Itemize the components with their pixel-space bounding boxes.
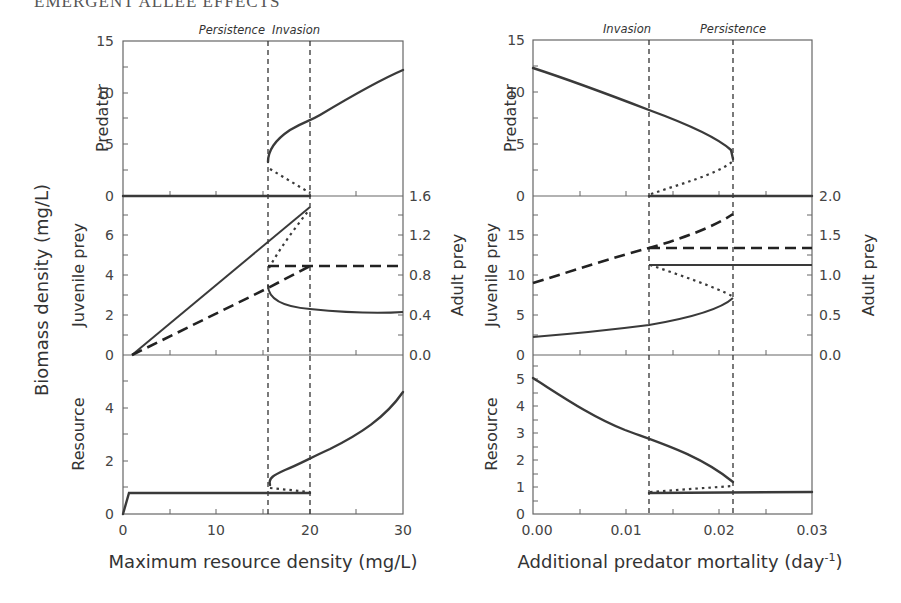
tick-label: 4	[516, 398, 525, 414]
left-predator-unstable-curve	[270, 169, 310, 193]
tick-label: 0	[105, 506, 114, 522]
tick-label: 10	[507, 267, 525, 283]
left-figure: Persistence Invasion Predator 0 5 10 15 …	[69, 23, 467, 572]
right-annotation-invasion: Invasion	[603, 22, 651, 36]
right-y-ticks	[533, 66, 812, 501]
left-y-ticks	[123, 67, 403, 487]
right-juvenile-ylabel: Juvenile prey	[482, 223, 501, 328]
tick-label: 6	[105, 227, 114, 243]
tick-label: 2	[105, 307, 114, 323]
right-resource-unstable-curve	[650, 486, 732, 492]
tick-label: 4	[105, 400, 114, 416]
right-predator-stable-curve	[533, 68, 733, 159]
tick-label: 1.2	[409, 227, 431, 243]
tick-label: 0	[119, 522, 128, 538]
tick-label: 2	[105, 453, 114, 469]
left-x-ticks	[170, 191, 356, 514]
right-plot-frame	[533, 40, 812, 514]
shared-y-axis-label: Biomass density (mg/L)	[31, 184, 52, 396]
tick-label: 5	[516, 136, 525, 152]
tick-label: 0	[105, 347, 114, 363]
tick-label: 0.5	[819, 307, 841, 323]
x-label-superscript: -1	[824, 551, 835, 564]
left-plot-frame	[123, 41, 403, 514]
tick-label: 5	[105, 136, 114, 152]
x-label-end: )	[835, 551, 842, 572]
tick-label: 0.00	[521, 522, 552, 538]
tick-label: 15	[96, 33, 114, 49]
bifurcation-figure: Biomass density (mg/L) Persistence Invas…	[0, 0, 901, 603]
right-resource-predator-free-curve	[649, 492, 812, 493]
left-x-axis-label: Maximum resource density (mg/L)	[109, 551, 418, 572]
tick-label: 2.0	[819, 188, 841, 204]
tick-label: 4	[105, 267, 114, 283]
left-resource-ylabel: Resource	[69, 397, 88, 470]
right-predator-unstable-curve	[651, 162, 732, 194]
tick-label: 30	[394, 522, 412, 538]
right-juvenile-unstable-curve	[650, 265, 732, 296]
left-juvenile-predator-free-curve	[132, 207, 310, 355]
x-label-text: Additional predator mortality (day	[518, 551, 825, 572]
left-resource-with-predator-curve	[270, 392, 403, 485]
tick-label: 0	[105, 188, 114, 204]
right-resource-with-predator-curve	[533, 378, 733, 482]
right-juvenile-with-predator-curve	[533, 298, 733, 337]
left-juvenile-unstable-curve	[269, 210, 309, 268]
tick-label: 1.6	[409, 188, 431, 204]
tick-label: 20	[301, 522, 319, 538]
tick-label: 2	[516, 452, 525, 468]
left-annotation-persistence: Persistence	[199, 23, 265, 37]
tick-label: 0.4	[409, 307, 431, 323]
tick-label: 0.0	[409, 347, 431, 363]
tick-label: 1.0	[819, 267, 841, 283]
tick-label: 5	[516, 307, 525, 323]
left-annotation-invasion: Invasion	[272, 23, 320, 37]
right-resource-ylabel: Resource	[482, 397, 501, 470]
tick-label: 10	[207, 522, 225, 538]
tick-label: 15	[507, 32, 525, 48]
tick-label: 0.01	[610, 522, 641, 538]
tick-label: 3	[516, 425, 525, 441]
tick-label: 10	[96, 85, 114, 101]
left-resource-unstable-curve	[270, 488, 310, 492]
tick-label: 5	[516, 371, 525, 387]
right-x-axis-label: Additional predator mortality (day-1)	[518, 551, 843, 572]
tick-label: 1.5	[819, 227, 841, 243]
tick-label: 0.03	[796, 522, 827, 538]
left-juvenile-ylabel: Juvenile prey	[69, 223, 88, 328]
tick-label: 1	[516, 479, 525, 495]
left-predator-stable-curve	[268, 70, 403, 162]
right-annotation-persistence: Persistence	[700, 22, 766, 36]
tick-label: 0.0	[819, 347, 841, 363]
tick-label: 10	[507, 84, 525, 100]
right-figure: Invasion Persistence Predator 0 5 10 15 …	[482, 22, 878, 572]
tick-label: 0	[516, 347, 525, 363]
left-juvenile-with-predator-curve	[268, 285, 403, 313]
tick-label: 15	[507, 227, 525, 243]
left-adult-y2label: Adult prey	[448, 234, 467, 316]
tick-label: 0.8	[409, 267, 431, 283]
tick-label: 0.02	[703, 522, 734, 538]
left-adult-predator-free-curve	[132, 266, 310, 355]
tick-label: 0	[516, 188, 525, 204]
right-adult-y2label: Adult prey	[859, 234, 878, 316]
tick-label: 0	[516, 506, 525, 522]
